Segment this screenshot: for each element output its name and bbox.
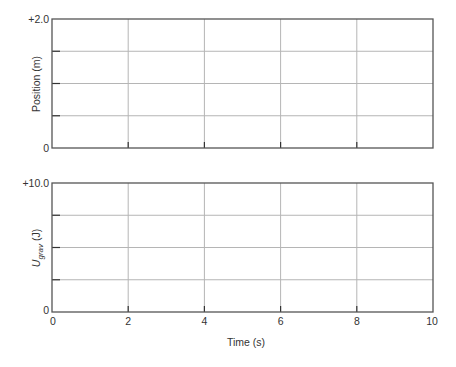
y-label-unit: (J) — [30, 229, 42, 244]
y-min-label: 0 — [43, 142, 49, 154]
y-axis-label: Ugrav (J) — [30, 229, 45, 267]
x-tick-label: 0 — [50, 315, 56, 327]
x-tick-label: 8 — [354, 315, 360, 327]
x-axis-label: Time (s) — [227, 336, 265, 348]
y-min-label: 0 — [43, 304, 49, 316]
y-max-label: +10.0 — [22, 177, 49, 189]
chart-canvas: +2.0 0 Position (m) +10.0 0 Ugrav (J) 0 … — [0, 0, 456, 367]
y-label-sub: grav — [36, 243, 45, 260]
x-tick-label: 4 — [201, 315, 207, 327]
y-axis-label: Position (m) — [30, 56, 42, 112]
y-max-label: +2.0 — [28, 13, 49, 25]
x-tick-label: 10 — [426, 315, 438, 327]
x-tick-label: 6 — [278, 315, 284, 327]
position-plot: +2.0 0 Position (m) — [28, 13, 433, 154]
x-tick-label: 2 — [125, 315, 131, 327]
ugrav-plot: +10.0 0 Ugrav (J) 0 2 4 6 8 10 Time (s) — [22, 177, 438, 348]
